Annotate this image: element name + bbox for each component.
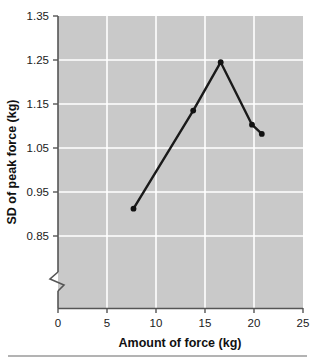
y-tick-label: 1.25 [27,54,49,66]
x-tick-label: 5 [104,317,110,329]
data-point [218,59,224,65]
x-tick-label: 15 [199,317,212,329]
data-point [259,131,265,137]
y-axis-title: SD of peak force (kg) [5,99,19,224]
y-tick-labels: 1.35 1.25 1.15 1.05 0.95 0.85 [27,10,49,242]
y-tick-label: 1.05 [27,142,49,154]
line-chart: 1.35 1.25 1.15 1.05 0.95 0.85 0 5 10 15 … [0,0,315,363]
y-tick-label: 1.35 [27,10,49,22]
x-tick-labels: 0 5 10 15 20 25 [55,317,310,329]
x-tick-label: 25 [297,317,310,329]
x-tick-label: 20 [248,317,261,329]
figure-container: 1.35 1.25 1.15 1.05 0.95 0.85 0 5 10 15 … [0,0,315,363]
data-point [249,122,255,128]
data-point [190,108,196,114]
y-tick-label: 0.85 [27,230,49,242]
x-axis-title: Amount of force (kg) [119,336,242,350]
y-tick-label: 0.95 [27,186,49,198]
x-tick-label: 10 [150,317,163,329]
x-tick-label: 0 [55,317,61,329]
data-point [131,206,137,212]
y-tick-label: 1.15 [27,98,49,110]
